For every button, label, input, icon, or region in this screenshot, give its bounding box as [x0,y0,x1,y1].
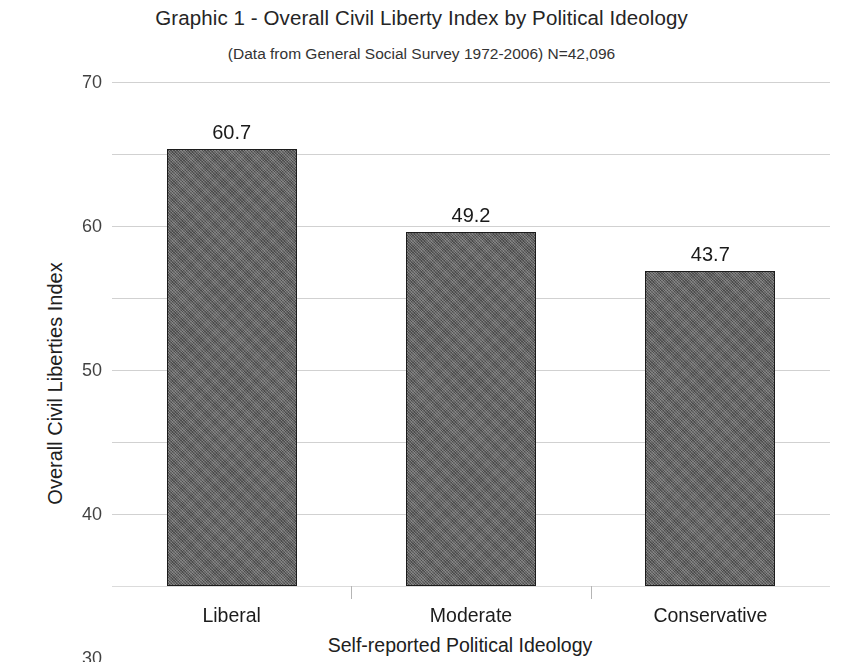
y-tick-label: 30 [82,648,102,662]
bar-value-label: 49.2 [452,204,491,227]
y-tick-label: 60 [82,216,102,237]
x-axis-tick [351,586,352,599]
x-tick-label-conservative: Conservative [653,604,767,627]
bar-value-label: 43.7 [691,243,730,266]
gridline-0: 0 [112,586,830,587]
y-tick-label: 50 [82,360,102,381]
bar-liberal[interactable] [167,149,297,586]
x-axis-tick [591,586,592,599]
x-tick-label-moderate: Moderate [430,604,512,627]
gridline-70: 70 [112,82,830,83]
x-tick-label-liberal: Liberal [202,604,261,627]
bar-chart: Graphic 1 - Overall Civil Liberty Index … [0,0,843,662]
x-axis-title: Self-reported Political Ideology [160,634,760,657]
bar-value-label: 60.7 [212,121,251,144]
y-tick-label: 70 [82,72,102,93]
bar-moderate[interactable] [406,232,536,586]
plot-area: 01020304050607060.7Liberal49.2Moderate43… [112,82,830,586]
chart-subtitle: (Data from General Social Survey 1972-20… [0,45,843,63]
chart-title: Graphic 1 - Overall Civil Liberty Index … [0,6,843,30]
y-tick-label: 40 [82,504,102,525]
bar-conservative[interactable] [645,271,775,586]
y-axis-title: Overall Civil Liberties Index [44,174,67,594]
